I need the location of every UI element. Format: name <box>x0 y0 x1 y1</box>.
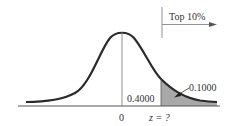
z-value-label: z = ? <box>148 112 170 123</box>
mean-label: 0 <box>119 112 124 123</box>
normal-curve-diagram: Top 10% 0.1000 0.4000 0 z = ? <box>0 0 231 126</box>
middle-area-label: 0.4000 <box>127 93 155 104</box>
arrow-head-icon <box>209 22 217 27</box>
top-region-label: Top 10% <box>169 11 205 22</box>
tail-area-label: 0.1000 <box>189 82 217 93</box>
